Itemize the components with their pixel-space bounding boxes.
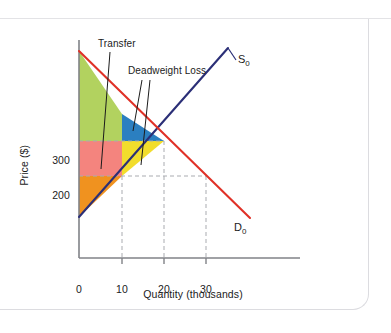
demand-curve-label: D0 xyxy=(234,222,246,236)
y-tick-label-300: 300 xyxy=(42,155,70,166)
x-tick-label-20: 20 xyxy=(151,284,177,295)
supply-label-leader-line xyxy=(228,48,236,60)
demand-curve-label-text: D xyxy=(234,221,242,233)
supply-curve-label: S0 xyxy=(238,54,250,68)
x-tick-label-30: 30 xyxy=(193,284,219,295)
page-root: Price ($) Quantity (thousands) 300 200 0… xyxy=(0,0,391,333)
x-tick-label-0: 0 xyxy=(66,284,92,295)
x-tick-label-10: 10 xyxy=(109,284,135,295)
supply-demand-chart: Price ($) Quantity (thousands) 300 200 0… xyxy=(0,19,368,309)
y-axis-title: Price ($) xyxy=(19,125,30,205)
x-axis-ticks xyxy=(122,258,206,264)
figure-card: Price ($) Quantity (thousands) 300 200 0… xyxy=(0,19,369,310)
demand-curve-label-subscript: 0 xyxy=(242,227,246,236)
region-pink-transfer xyxy=(79,141,122,176)
y-tick-label-200: 200 xyxy=(42,190,70,201)
annotation-deadweight-loss-label: Deadweight Loss xyxy=(128,66,206,76)
region-green-consumer-surplus xyxy=(79,51,122,141)
annotation-transfer-label: Transfer xyxy=(98,39,136,49)
supply-label-leader xyxy=(228,48,236,60)
supply-curve-label-subscript: 0 xyxy=(245,59,249,68)
